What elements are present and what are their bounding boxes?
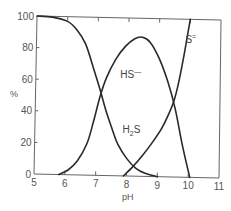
y-tick-label: 100: [17, 11, 34, 22]
x-tick-label: 7: [93, 178, 99, 189]
x-tick-label: 10: [183, 180, 195, 191]
series-curves: [37, 16, 190, 177]
x-tick-label: 5: [31, 177, 37, 188]
y-tick-label: 20: [20, 137, 32, 148]
x-axis-label: pH: [122, 192, 134, 202]
series-label-h2s: H2S: [123, 124, 141, 137]
axes-frame: [34, 16, 221, 178]
plot-frame: [34, 16, 221, 178]
curve-s2: [123, 19, 190, 176]
x-tick-label: 6: [62, 178, 68, 189]
x-tick-label: 11: [214, 181, 225, 192]
y-tick-label: 60: [22, 74, 34, 85]
speciation-chart: 567891011 020406080100 H2SHS—S= pH %: [0, 0, 231, 211]
curve-h2s: [37, 16, 157, 177]
y-axis-label: %: [10, 89, 18, 99]
x-tick-label: 9: [155, 180, 161, 191]
y-tick-label: 80: [22, 42, 34, 53]
y-tick-label: 40: [21, 105, 33, 116]
series-label-s2: S=: [185, 33, 196, 45]
y-tick-label: 0: [25, 169, 31, 180]
series-label-hs: HS—: [120, 68, 141, 80]
y-axis-ticks: 020406080100: [17, 11, 39, 180]
x-tick-label: 8: [124, 179, 130, 190]
